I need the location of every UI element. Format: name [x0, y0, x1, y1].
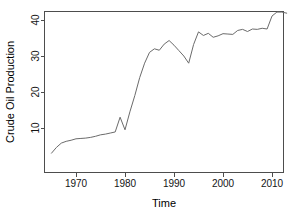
x-tick-label: 1990 — [163, 178, 186, 189]
x-axis-title: Time — [152, 197, 176, 209]
y-tick-label: 10 — [30, 122, 41, 134]
x-axis-ticks — [76, 173, 272, 177]
y-tick-label: 20 — [30, 86, 41, 98]
data-series-line — [52, 12, 287, 153]
y-axis-ticks — [41, 20, 45, 128]
x-tick-label: 2000 — [212, 178, 235, 189]
x-tick-label: 1970 — [65, 178, 88, 189]
y-axis-title: Crude Oil Production — [4, 41, 16, 143]
data-series-group — [52, 12, 287, 153]
crude-oil-production-line-chart: 19701980199020002010 10203040 Time Crude… — [0, 0, 304, 213]
y-axis-tick-labels: 10203040 — [30, 14, 41, 134]
x-tick-label: 1980 — [114, 178, 137, 189]
y-tick-label: 30 — [30, 50, 41, 62]
x-tick-label: 2010 — [261, 178, 284, 189]
chart-container: 19701980199020002010 10203040 Time Crude… — [0, 0, 304, 213]
x-axis-tick-labels: 19701980199020002010 — [65, 178, 284, 189]
y-tick-label: 40 — [30, 14, 41, 26]
plot-frame-path — [45, 12, 284, 173]
plot-frame — [45, 12, 284, 173]
